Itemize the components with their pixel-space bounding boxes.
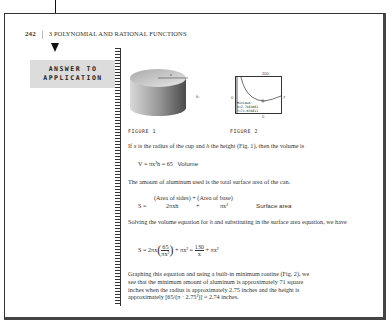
pointer-arrow-icon — [51, 43, 59, 52]
chapter-title: 3 POLYNOMIAL AND RATIONAL FUNCTIONS — [49, 30, 187, 37]
calculator-graph: Minimum X=2.7481081 Y=71.034811 — [235, 76, 282, 114]
cylinder-figure: x — [128, 64, 190, 118]
graph-x-max: 7 — [283, 95, 285, 100]
page-number: 242 — [25, 30, 36, 38]
banner-line-1: ANSWER TO — [30, 65, 116, 74]
substitution-equation: S = 2πx(65πx²) + πx² = 130x + πx² — [138, 244, 378, 257]
volume-label: Volume — [178, 160, 199, 167]
margin-ruler-spine — [120, 48, 121, 306]
banner-line-2: APPLICATION — [30, 74, 116, 83]
answer-to-application-banner: ANSWER TO APPLICATION — [30, 60, 116, 88]
volume-equation: V = πx²h = 65 Volume — [138, 160, 198, 168]
graph-readout-values: X=2.7481081 Y=71.034811 — [237, 106, 281, 114]
paragraph-4: Graphing this equation and using a built… — [128, 270, 368, 301]
figure-1-caption: FIGURE 1 — [128, 128, 156, 134]
surface-area-label: Surface area — [256, 202, 291, 210]
height-label: h — [196, 94, 199, 99]
surface-area-header: (Area of sides) + (Area of base) — [154, 194, 233, 202]
paragraph-2: The amount of aluminum used is the total… — [128, 178, 290, 186]
graph-x-min: 0 — [231, 95, 233, 100]
graph-y-min: 0 — [262, 114, 264, 119]
figure-2-caption: FIGURE 2 — [230, 128, 258, 134]
surface-area-equation: S = 2πxh + πx² Surface area — [138, 202, 378, 210]
radius-label: x — [169, 72, 172, 77]
header-divider — [42, 31, 43, 39]
paragraph-1: If x is the radius of the cup and h the … — [128, 142, 304, 150]
running-head: 2423 POLYNOMIAL AND RATIONAL FUNCTIONS — [25, 30, 187, 39]
paragraph-3: Solving the volume equation for h and su… — [128, 218, 368, 226]
